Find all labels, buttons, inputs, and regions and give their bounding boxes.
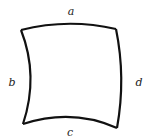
label-b: b: [8, 76, 15, 89]
quadrilateral-diagram: a b c d: [0, 0, 148, 139]
label-c: c: [67, 126, 73, 139]
edge-right: [116, 29, 121, 128]
label-a: a: [68, 5, 75, 18]
label-d: d: [135, 76, 142, 89]
edge-left: [21, 30, 31, 124]
edge-top: [21, 24, 116, 30]
